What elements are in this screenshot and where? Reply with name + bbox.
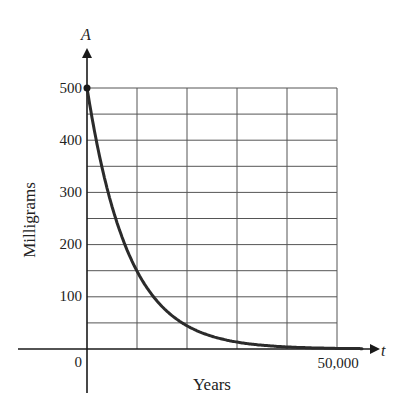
decay-chart: A t 500 400 300 200 100 0 50,000 Milligr…	[0, 0, 401, 420]
initial-point	[84, 85, 91, 92]
y-tick-300: 300	[60, 184, 83, 200]
y-axis-title: Milligrams	[20, 182, 39, 258]
origin-label: 0	[75, 354, 83, 370]
x-axis-variable: t	[381, 342, 386, 359]
y-axis-variable: A	[80, 26, 91, 43]
x-axis-title: Years	[193, 375, 231, 394]
y-tick-100: 100	[60, 288, 83, 304]
grid	[87, 88, 337, 349]
y-tick-200: 200	[60, 236, 83, 252]
y-tick-500: 500	[60, 80, 83, 96]
y-tick-400: 400	[60, 132, 83, 148]
x-tick-50000: 50,000	[317, 355, 358, 371]
